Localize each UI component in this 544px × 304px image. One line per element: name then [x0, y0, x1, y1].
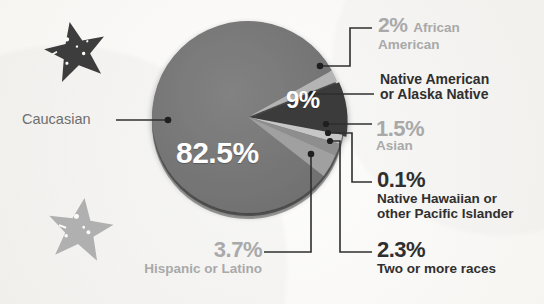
callout-two-or-more-races: 2.3% Two or more races: [377, 238, 496, 276]
callout-hispanic-latino-value: 3.7%: [120, 238, 262, 261]
star-icon-bottom-left: [44, 193, 117, 262]
callout-native-hawaiian-name-line2: other Pacific Islander: [377, 207, 514, 221]
pie-value-native-american: 9%: [286, 86, 320, 114]
callout-african-american-name-line1: African: [413, 21, 460, 35]
callout-asian-value: 1.5%: [376, 117, 424, 140]
pie-value-caucasian: 82.5%: [176, 136, 259, 170]
callout-african-american-value: 2%: [378, 14, 407, 36]
callout-hispanic-latino: 3.7% Hispanic or Latino: [120, 238, 262, 276]
callout-native-american-name-line1: Native American: [380, 72, 489, 87]
callout-african-american-name-line2: American: [378, 37, 440, 52]
callout-hispanic-latino-name: Hispanic or Latino: [120, 262, 262, 276]
leader-african-american: [320, 28, 372, 66]
callout-asian: 1.5% Asian: [376, 117, 424, 153]
callout-two-or-more-races-name: Two or more races: [377, 262, 496, 276]
callout-caucasian-name: Caucasian: [22, 111, 91, 127]
dot-hispanic: [308, 151, 315, 158]
dot-african-american: [317, 63, 324, 70]
dot-asian: [323, 121, 329, 127]
callout-caucasian: Caucasian: [22, 111, 91, 128]
callout-native-hawaiian: 0.1% Native Hawaiian or other Pacific Is…: [377, 168, 514, 221]
callout-native-american-name-line2: or Alaska Native: [380, 87, 489, 102]
callout-native-hawaiian-value: 0.1%: [377, 168, 514, 191]
infographic-canvas: 82.5% 9% Caucasian 2% African American N…: [0, 0, 544, 304]
callout-african-american: 2% African American: [378, 14, 460, 53]
callout-two-or-more-races-value: 2.3%: [377, 238, 496, 261]
star-icon-top-left: [40, 16, 112, 85]
callout-asian-name: Asian: [376, 139, 424, 153]
callout-native-hawaiian-name-line1: Native Hawaiian or: [377, 192, 514, 206]
callout-native-american: Native American or Alaska Native: [380, 72, 489, 101]
dot-native-hawaiian: [325, 130, 331, 136]
dot-two-or-more: [327, 138, 333, 144]
dot-caucasian: [165, 117, 172, 124]
